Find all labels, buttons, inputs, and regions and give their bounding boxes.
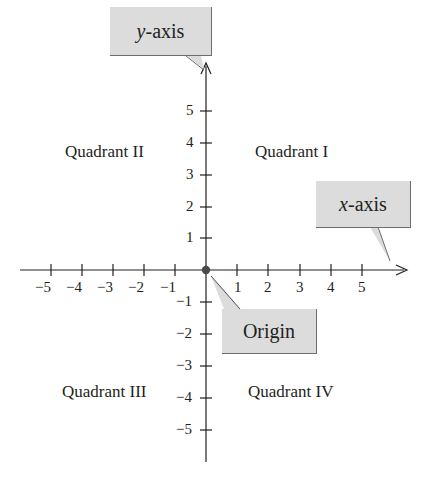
x-axis-callout-pointer-edge [378,227,390,261]
x-tick-label: 1 [234,280,242,295]
y-tick-label: −5 [176,422,192,437]
origin-callout: Origin [222,309,317,354]
y-tick-label: −2 [176,326,192,341]
quadrant-iii-label: Quadrant III [62,382,147,402]
y-axis-callout-pointer [186,55,204,69]
y-tick-label: 3 [186,167,194,182]
x-axis-label-variable: x [339,193,348,215]
x-axis-callout: x-axis [316,181,411,228]
y-tick-label: −1 [176,294,192,309]
coordinate-plane [0,0,431,484]
y-axis-label: y-axis [137,20,185,43]
quadrant-ii-label: Quadrant II [65,142,144,162]
origin-label: Origin [243,320,295,343]
y-tick-label: 5 [186,103,194,118]
x-tick-label: 5 [358,280,366,295]
quadrant-iv-label: Quadrant IV [248,382,333,402]
quadrant-i-label: Quadrant I [255,142,328,162]
x-tick-label: −4 [66,280,82,295]
x-tick-label: −2 [128,280,144,295]
x-tick-label: 4 [327,280,335,295]
y-tick-label: −4 [176,390,192,405]
origin-point [202,266,210,274]
y-axis-label-suffix: -axis [146,20,185,42]
y-axis-callout: y-axis [110,7,212,56]
y-tick-label: 2 [186,199,194,214]
x-tick-label: −3 [97,280,113,295]
y-tick-label: 4 [186,135,194,150]
y-tick-label: −3 [176,358,192,373]
x-tick-label: 3 [296,280,304,295]
x-tick-label: −5 [35,280,51,295]
y-tick-label: 1 [186,230,194,245]
x-tick-label: −1 [160,280,176,295]
x-axis-label-suffix: -axis [348,193,387,215]
x-tick-label: 2 [264,280,272,295]
x-axis-label: x-axis [339,193,387,216]
y-axis-label-variable: y [137,20,146,42]
